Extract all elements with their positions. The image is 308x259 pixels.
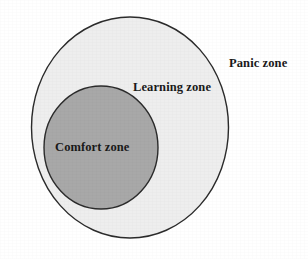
panic-zone-label: Panic zone	[229, 57, 287, 70]
comfort-zone-label: Comfort zone	[55, 141, 129, 154]
zone-diagram-figure: Panic zone Learning zone Comfort zone	[0, 0, 308, 259]
learning-zone-label: Learning zone	[133, 81, 211, 94]
zone-diagram-canvas	[0, 0, 308, 259]
